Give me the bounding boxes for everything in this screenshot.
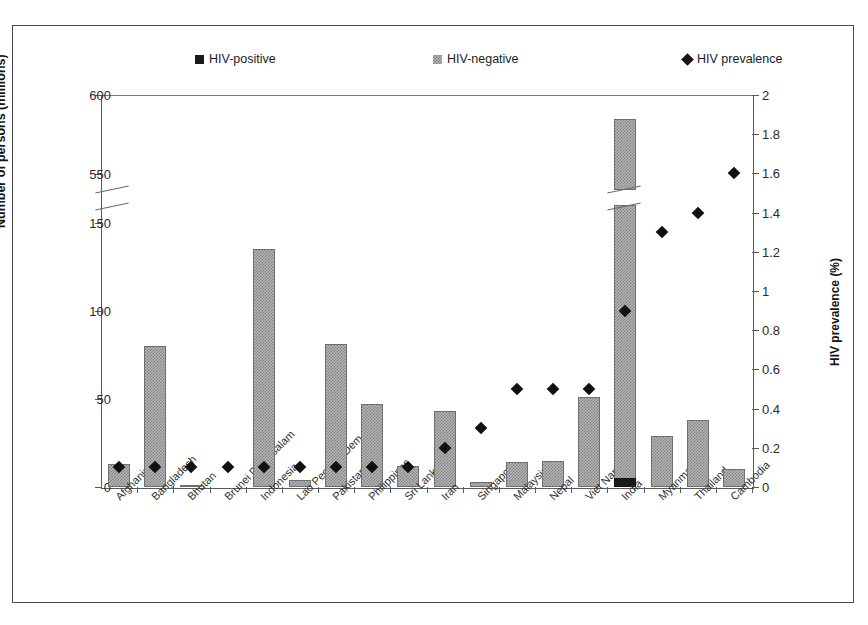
x-axis-tick [535,487,536,493]
legend-label: HIV-positive [209,52,276,66]
x-axis-tick [210,487,211,493]
legend-item-hiv-prevalence: HIV prevalence [683,52,782,66]
bar-hiv-negative [687,420,709,487]
x-axis-tick [354,487,355,493]
y-axis-right-tick-label: 0.2 [762,440,802,455]
y-axis-left-tick-label: 600 [51,88,111,103]
y-axis-left-tick-label: 150 [51,215,111,230]
y-axis-right-tick-label: 1.8 [762,127,802,142]
x-axis-tick [716,487,717,493]
y-axis-right-tick-label: 0.8 [762,323,802,338]
x-axis-tick [607,487,608,493]
y-axis-right-title: HIV prevalence (%) [828,186,842,366]
bar-hiv-negative [253,249,275,487]
x-axis-tick [427,487,428,493]
legend-label: HIV prevalence [697,52,782,66]
chart-legend: HIV-positive HIV-negative HIV prevalence [100,50,780,74]
bar-hiv-negative-upper [614,119,636,190]
x-axis-tick [644,487,645,493]
x-axis-tick [571,487,572,493]
y-axis-right-tick [752,252,759,253]
y-axis-right-tick-label: 0 [762,480,802,495]
bar-hiv-negative-lower [614,205,636,487]
y-axis-left-tick-label: 0 [51,480,111,495]
gray-hatched-square-icon [433,55,442,64]
y-axis-right-tick [752,409,759,410]
x-axis-tick [173,487,174,493]
y-axis-right-tick-label: 0.4 [762,401,802,416]
y-axis-right-tick-label: 1.6 [762,166,802,181]
y-axis-right-tick [752,487,759,488]
x-axis-tick [282,487,283,493]
bar-hiv-negative [578,397,600,487]
x-axis-tick [463,487,464,493]
chart-figure: HIV-positive HIV-negative HIV prevalence… [0,0,868,625]
y-axis-right-tick-label: 2 [762,88,802,103]
y-axis-right-tick [752,291,759,292]
y-axis-left-tick-label: 550 [51,167,111,182]
x-axis-tick [390,487,391,493]
y-axis-left-tick-label: 50 [51,391,111,406]
y-axis-right-tick [752,213,759,214]
y-axis-right-tick [752,95,759,96]
y-axis-right-tick-label: 1.2 [762,244,802,259]
bar-hiv-negative [361,404,383,487]
x-axis-tick [499,487,500,493]
black-diamond-icon [681,53,694,66]
x-axis-tick [680,487,681,493]
y-axis-right-tick [752,369,759,370]
legend-label: HIV-negative [447,52,519,66]
black-square-icon [195,55,204,64]
x-axis-tick [752,487,753,493]
y-axis-right-tick [752,134,759,135]
plot-area [101,95,754,489]
x-axis-tick [137,487,138,493]
y-axis-left-tick-label: 100 [51,303,111,318]
x-axis-tick [318,487,319,493]
y-axis-left-title: Number of persons (millions) [0,28,8,228]
legend-item-hiv-negative: HIV-negative [433,52,519,66]
y-axis-right-tick-label: 1 [762,284,802,299]
x-axis-tick [246,487,247,493]
y-axis-right-tick [752,173,759,174]
legend-item-hiv-positive: HIV-positive [195,52,276,66]
y-axis-right-tick [752,330,759,331]
y-axis-right-tick-label: 1.4 [762,205,802,220]
y-axis-right-tick [752,448,759,449]
y-axis-right-tick-label: 0.6 [762,362,802,377]
